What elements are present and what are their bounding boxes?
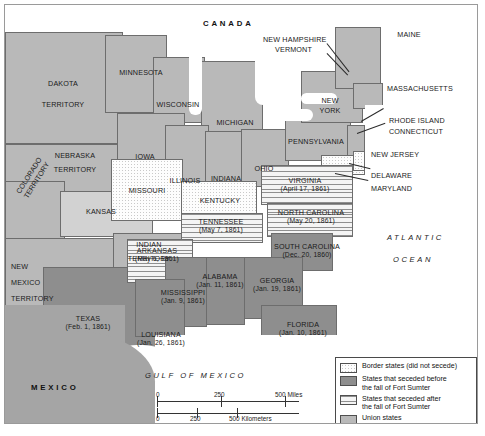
- label-ocean: OCEAN: [393, 255, 433, 264]
- scale-line-kilometers: [157, 413, 299, 414]
- region-missouri: [111, 159, 183, 221]
- legend-label-border-states: Border states (did not secede): [362, 362, 457, 371]
- label-gulf-of-mexico: GULF OF MEXICO: [145, 371, 246, 380]
- label-new-hampshire: NEW HAMPSHIRE: [263, 36, 326, 44]
- water-atlantic-body: [365, 105, 477, 351]
- scale-label-miles-250: 250: [214, 391, 225, 398]
- region-michigan: [201, 61, 263, 135]
- map-frame: CANADA MEXICO ATLANTIC OCEAN GULF OF MEX…: [4, 4, 478, 424]
- legend-item-border-states: Border states (did not secede): [340, 362, 471, 373]
- legend-swatch-seceded-before: [340, 376, 357, 386]
- scale-label-km-250: 250: [190, 415, 201, 422]
- label-vermont: VERMONT: [275, 46, 312, 54]
- lake-michigan: [189, 51, 202, 115]
- civil-war-secession-map: CANADA MEXICO ATLANTIC OCEAN GULF OF MEX…: [0, 0, 485, 436]
- region-louisiana: [135, 279, 185, 337]
- scale-label-km-500: 500 Kilometers: [229, 415, 272, 422]
- legend-label-union-states: Union states: [362, 414, 401, 423]
- legend-label-seceded-after: States that seceded after the fall of Fo…: [362, 395, 441, 412]
- legend-item-seceded-after: States that seceded after the fall of Fo…: [340, 395, 471, 412]
- legend-swatch-union-states: [340, 415, 357, 424]
- region-delaware: [353, 151, 365, 171]
- legend-item-seceded-before: States that seceded before the fall of F…: [340, 375, 471, 392]
- lake-ontario: [301, 93, 337, 104]
- legend-swatch-seceded-after: [340, 395, 357, 405]
- label-mexico: MEXICO: [31, 383, 79, 392]
- map-legend: Border states (did not secede) States th…: [335, 357, 477, 424]
- label-canada: CANADA: [203, 19, 254, 28]
- scale-label-km-0: 0: [156, 415, 160, 422]
- region-tennessee: [181, 213, 263, 243]
- water-atlantic-upper: [383, 35, 477, 107]
- region-kentucky: [181, 181, 257, 215]
- region-alabama: [201, 257, 245, 325]
- legend-item-union-states: Union states: [340, 414, 471, 424]
- legend-swatch-border-states: [340, 363, 357, 373]
- scale-label-miles-0: 0: [156, 391, 160, 398]
- scale-line-miles: [157, 401, 299, 402]
- legend-label-seceded-before: States that seceded before the fall of F…: [362, 375, 447, 392]
- region-virginia: [261, 165, 353, 205]
- lake-erie: [267, 109, 313, 121]
- scale-label-miles-500: 500 Miles: [275, 391, 302, 398]
- region-north-carolina: [267, 203, 353, 237]
- lake-huron: [255, 49, 275, 105]
- label-atlantic: ATLANTIC: [387, 233, 444, 242]
- region-new-england: [335, 27, 381, 89]
